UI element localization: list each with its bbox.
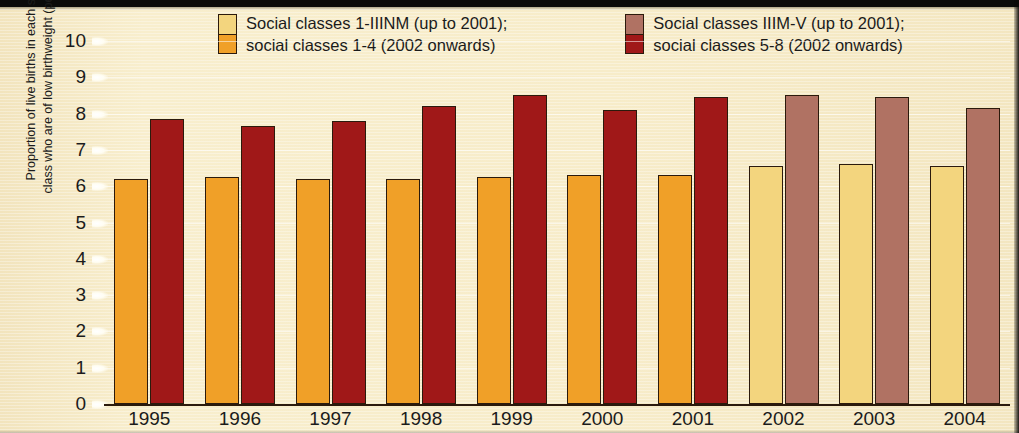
right-dark-edge — [1014, 0, 1019, 433]
x-tick-label: 2003 — [829, 409, 919, 430]
bar-group — [114, 41, 184, 404]
chart-page: Proportion of live births in each social… — [0, 0, 1019, 433]
y-tick-label: 4 — [40, 249, 86, 268]
bar-group — [477, 41, 547, 404]
x-axis-line — [104, 404, 1010, 406]
bar-group — [839, 41, 909, 404]
bar-light-social-classes — [114, 179, 148, 404]
legend-label-light-line1: Social classes 1-IIINM (up to 2001); — [246, 13, 507, 35]
y-tick-label: 8 — [40, 104, 86, 123]
x-tick-label: 2000 — [557, 409, 647, 430]
x-tick-label: 2001 — [648, 409, 738, 430]
y-tick-label: 9 — [40, 67, 86, 86]
bar-light-social-classes — [658, 175, 692, 404]
bar-dark-social-classes — [422, 106, 456, 404]
top-black-band — [0, 0, 1019, 7]
y-tick-label: 5 — [40, 213, 86, 232]
y-tick-label: 6 — [40, 176, 86, 195]
bar-light-social-classes — [296, 179, 330, 404]
bar-group — [205, 41, 275, 404]
bar-light-social-classes — [749, 166, 783, 404]
legend-swatch-light-top — [219, 15, 236, 35]
bar-dark-social-classes — [694, 97, 728, 404]
legend-swatch-dark-top — [626, 15, 643, 35]
bar-dark-social-classes — [332, 121, 366, 404]
x-tick-label: 2002 — [739, 409, 829, 430]
bar-light-social-classes — [477, 177, 511, 404]
y-tick-label: 0 — [40, 394, 86, 413]
x-tick-label: 1996 — [195, 409, 285, 430]
x-tick-label: 1999 — [467, 409, 557, 430]
bar-group — [386, 41, 456, 404]
bar-light-social-classes — [567, 175, 601, 404]
y-tick-label: 10 — [40, 31, 86, 50]
bar-light-social-classes — [839, 164, 873, 404]
bar-light-social-classes — [386, 179, 420, 404]
y-tick-label: 3 — [40, 285, 86, 304]
bar-dark-social-classes — [241, 126, 275, 404]
bar-dark-social-classes — [513, 95, 547, 404]
bar-group — [658, 41, 728, 404]
bar-dark-social-classes — [875, 97, 909, 404]
bar-group — [567, 41, 637, 404]
x-tick-label: 2004 — [920, 409, 1010, 430]
y-tick-label: 7 — [40, 140, 86, 159]
y-tick-label: 2 — [40, 321, 86, 340]
bar-light-social-classes — [205, 177, 239, 404]
bar-group — [296, 41, 366, 404]
top-band-shadow — [0, 7, 1019, 10]
x-tick-label: 1998 — [376, 409, 466, 430]
y-axis-title-line1: Proportion of live births in each social — [23, 0, 40, 257]
plot-area — [104, 41, 1010, 404]
bar-dark-social-classes — [603, 110, 637, 404]
bar-light-social-classes — [930, 166, 964, 404]
x-tick-label: 1997 — [286, 409, 376, 430]
bar-dark-social-classes — [966, 108, 1000, 404]
legend-label-dark-line1: Social classes IIIM-V (up to 2001); — [653, 13, 904, 35]
bar-dark-social-classes — [150, 119, 184, 404]
bar-group — [749, 41, 819, 404]
y-tick-label: 1 — [40, 358, 86, 377]
bar-dark-social-classes — [785, 95, 819, 404]
bar-group — [930, 41, 1000, 404]
x-tick-label: 1995 — [104, 409, 194, 430]
